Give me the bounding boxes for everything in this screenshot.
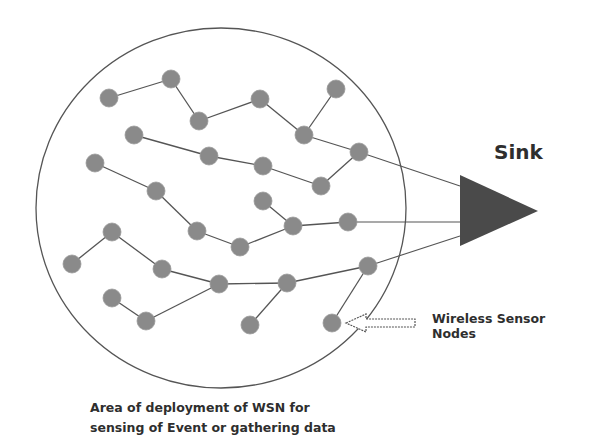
sensor-node-icon — [200, 147, 218, 165]
sensor-node-icon — [137, 312, 155, 330]
sensor-node-icon — [86, 154, 104, 172]
sink-links — [348, 152, 460, 266]
sensor-node-icon — [188, 222, 206, 240]
sensor-node-icon — [241, 316, 259, 334]
sensor-nodes — [63, 70, 377, 334]
sink-link-line — [359, 152, 460, 186]
diagram-canvas — [0, 0, 601, 448]
sensor-node-icon — [162, 70, 180, 88]
sensor-node-icon — [190, 112, 208, 130]
deployment-area-circle — [36, 28, 406, 388]
link-line — [134, 135, 209, 156]
deployment-area-caption: Area of deployment of WSN for sensing of… — [90, 398, 336, 438]
link-line — [287, 266, 368, 283]
sensor-node-icon — [147, 182, 165, 200]
sensor-node-icon — [359, 257, 377, 275]
sensor-node-icon — [254, 192, 272, 210]
sensor-node-icon — [284, 217, 302, 235]
link-line — [95, 163, 156, 191]
sensor-node-icon — [350, 143, 368, 161]
nodes-label-line2: Nodes — [432, 326, 545, 341]
sink-label: Sink — [494, 140, 543, 164]
caption-line1: Area of deployment of WSN for — [90, 398, 336, 418]
sensor-node-icon — [103, 223, 121, 241]
caption-line2: sensing of Event or gathering data — [90, 418, 336, 438]
link-line — [219, 283, 287, 284]
sensor-node-icon — [251, 90, 269, 108]
sensor-node-icon — [312, 177, 330, 195]
sensor-node-icon — [295, 126, 313, 144]
sensor-node-icon — [339, 213, 357, 231]
wsn-diagram: Sink Wireless Sensor Nodes Area of deplo… — [0, 0, 601, 448]
sensor-node-icon — [254, 157, 272, 175]
sensor-node-icon — [103, 289, 121, 307]
sensor-node-icon — [63, 255, 81, 273]
sensor-node-icon — [100, 89, 118, 107]
sensor-node-icon — [210, 275, 228, 293]
wireless-sensor-nodes-label: Wireless Sensor Nodes — [432, 311, 545, 341]
sensor-node-icon — [125, 126, 143, 144]
pointer-arrow-icon — [346, 314, 415, 332]
sink-triangle-icon — [460, 175, 538, 246]
sensor-node-icon — [327, 80, 345, 98]
sensor-node-icon — [153, 260, 171, 278]
link-line — [199, 99, 260, 121]
link-line — [146, 284, 219, 321]
sensor-node-icon — [231, 238, 249, 256]
sensor-node-icon — [323, 314, 341, 332]
nodes-label-line1: Wireless Sensor — [432, 311, 545, 326]
link-line — [109, 79, 171, 98]
sensor-node-icon — [278, 274, 296, 292]
link-line — [332, 266, 368, 323]
sink-link-line — [368, 236, 460, 266]
